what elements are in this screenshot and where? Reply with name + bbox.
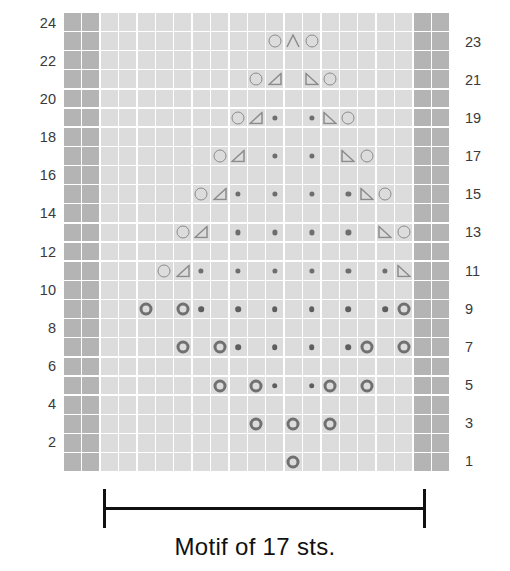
chart-cell — [156, 166, 173, 184]
chart-cell — [266, 147, 283, 165]
chart-border-cell — [82, 90, 99, 108]
chart-cell — [358, 396, 375, 414]
yarn-over-circle — [379, 188, 392, 201]
chart-cell — [322, 13, 339, 31]
row-number-right: 9 — [455, 300, 499, 318]
chart-cell — [395, 128, 412, 146]
chart-cell — [266, 281, 283, 299]
chart-border-cell — [432, 396, 449, 414]
row-number-right: 17 — [455, 147, 499, 165]
chart-cell — [358, 281, 375, 299]
chart-border-cell — [82, 70, 99, 88]
chart-border-cell — [432, 224, 449, 242]
purl-dot — [272, 230, 277, 235]
chart-cell — [230, 358, 247, 376]
chart-cell — [211, 147, 228, 165]
yarn-over-circle — [195, 188, 208, 201]
purl-dot — [236, 230, 241, 235]
row-number-left: 22 — [12, 52, 56, 70]
chart-cell — [266, 300, 283, 318]
chart-cell — [340, 13, 357, 31]
purl-dot — [272, 268, 277, 273]
chart-cell — [174, 358, 191, 376]
chart-cell — [156, 147, 173, 165]
purl-dot — [309, 230, 314, 235]
chart-cell — [156, 396, 173, 414]
chart-border-cell — [82, 147, 99, 165]
chart-cell — [285, 300, 302, 318]
chart-cell — [211, 128, 228, 146]
chart-border-cell — [432, 147, 449, 165]
chart-border-cell — [432, 185, 449, 203]
chart-cell — [230, 319, 247, 337]
chart-cell — [377, 358, 394, 376]
yarn-over-circle-bold — [397, 302, 410, 315]
chart-cell — [174, 109, 191, 127]
row-number-left: 14 — [12, 204, 56, 222]
chart-cell — [174, 281, 191, 299]
chart-cell — [303, 377, 320, 395]
chart-cell — [248, 32, 265, 50]
chart-border-cell — [64, 396, 81, 414]
chart-cell — [211, 358, 228, 376]
chart-cell — [101, 90, 118, 108]
chart-cell — [174, 262, 191, 280]
chart-cell — [138, 319, 155, 337]
chart-cell — [119, 377, 136, 395]
chart-cell — [193, 415, 210, 433]
chart-cell — [322, 453, 339, 471]
chart-cell — [156, 358, 173, 376]
chart-border-cell — [64, 262, 81, 280]
chart-border-cell — [64, 147, 81, 165]
chart-cell — [138, 243, 155, 261]
chart-cell — [340, 128, 357, 146]
chart-cell — [156, 32, 173, 50]
chart-cell — [119, 204, 136, 222]
chart-cell — [119, 453, 136, 471]
chart-cell — [303, 204, 320, 222]
chart-border-cell — [82, 434, 99, 452]
chart-cell — [358, 109, 375, 127]
chart-cell — [395, 147, 412, 165]
chart-cell — [395, 109, 412, 127]
chart-cell — [230, 204, 247, 222]
chart-cell — [358, 319, 375, 337]
chart-cell — [285, 396, 302, 414]
bracket-bar — [103, 507, 426, 510]
chart-cell — [266, 128, 283, 146]
chart-border-cell — [82, 32, 99, 50]
chart-cell — [395, 185, 412, 203]
chart-cell — [119, 396, 136, 414]
chart-cell — [340, 32, 357, 50]
chart-cell — [211, 166, 228, 184]
row-number-left: 20 — [12, 90, 56, 108]
chart-cell — [266, 377, 283, 395]
chart-border-cell — [414, 204, 431, 222]
chart-cell — [358, 51, 375, 69]
chart-cell — [303, 13, 320, 31]
chart-cell — [101, 204, 118, 222]
right-leaning-decrease-triangle — [360, 188, 374, 201]
chart-cell — [266, 338, 283, 356]
chart-cell — [285, 377, 302, 395]
chart-cell — [266, 396, 283, 414]
left-leaning-decrease-triangle — [268, 73, 282, 86]
chart-border-cell — [82, 453, 99, 471]
chart-cell — [285, 281, 302, 299]
chart-cell — [138, 377, 155, 395]
chart-border-cell — [64, 166, 81, 184]
chart-border-cell — [64, 377, 81, 395]
chart-border-cell — [414, 13, 431, 31]
chart-cell — [340, 224, 357, 242]
chart-cell — [303, 109, 320, 127]
chart-border-cell — [64, 281, 81, 299]
chart-cell — [285, 90, 302, 108]
purl-dot — [383, 268, 388, 273]
chart-cell — [358, 13, 375, 31]
row-numbers-left: 24222018161412108642 — [12, 0, 56, 485]
chart-cell — [322, 32, 339, 50]
yarn-over-circle-bold — [287, 417, 300, 430]
chart-cell — [285, 70, 302, 88]
chart-border-cell — [64, 128, 81, 146]
chart-cell — [193, 396, 210, 414]
